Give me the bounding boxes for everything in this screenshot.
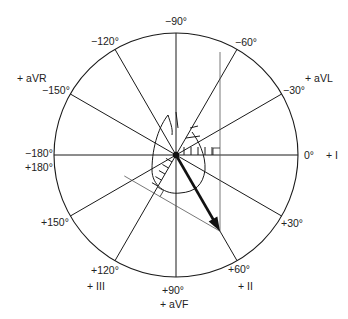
angle-label: −150°	[42, 84, 70, 96]
hexaxial-diagram	[0, 0, 348, 319]
lead-label: + III	[87, 280, 105, 292]
angle-label: +90°	[162, 284, 184, 296]
angle-label: +180°	[25, 161, 53, 173]
angle-label: +150°	[41, 216, 69, 228]
heart-outline	[152, 112, 205, 193]
mean-axis-arrow	[173, 152, 220, 231]
angle-label: 0°	[304, 149, 314, 161]
angle-label: +120°	[91, 264, 119, 276]
lead-label: + II	[238, 280, 253, 292]
angle-label: −30°	[283, 84, 305, 96]
lead-label: + aVR	[17, 72, 46, 84]
angle-label: −180°	[25, 147, 53, 159]
angle-label: +60°	[228, 263, 250, 275]
angle-label: −60°	[235, 36, 257, 48]
angle-label: −120°	[91, 35, 119, 47]
lead-label: + aVL	[305, 72, 333, 84]
lead-label: + I	[326, 149, 338, 161]
lead-label: + aVF	[160, 298, 188, 310]
angle-label: −90°	[165, 15, 187, 27]
angle-label: +30°	[281, 217, 303, 229]
